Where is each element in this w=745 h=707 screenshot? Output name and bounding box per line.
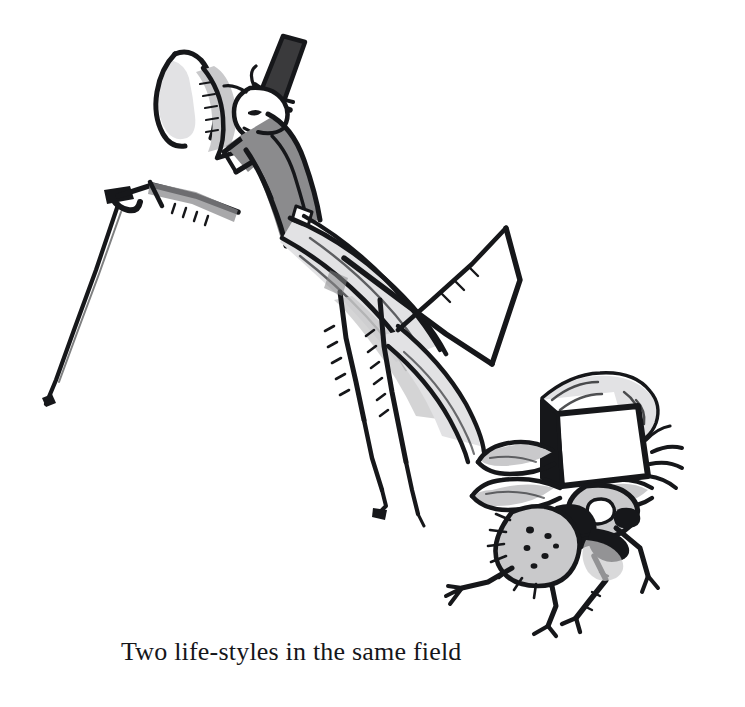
page-background xyxy=(0,0,745,707)
fly-boxy-cap-icon xyxy=(540,373,658,486)
illustration-page: .ink { fill:#16171a; } .dgray { fill:#3a… xyxy=(0,0,745,707)
illustration-caption: Two life-styles in the same field xyxy=(121,636,621,667)
cartoon-illustration: .ink { fill:#16171a; } .dgray { fill:#3a… xyxy=(0,0,745,707)
